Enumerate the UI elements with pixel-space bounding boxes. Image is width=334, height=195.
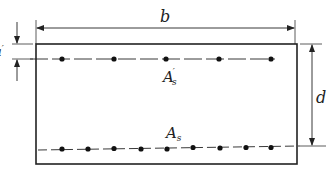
rebar-dot xyxy=(268,145,273,150)
section-diagram: b A′s As d a′ xyxy=(0,0,334,195)
rebar-dot xyxy=(138,146,143,151)
rebar-dot xyxy=(111,56,116,61)
rebar-dot xyxy=(85,146,90,151)
rebar-dot xyxy=(163,56,168,61)
cover-dimension: a′ xyxy=(0,22,33,81)
rebar-dot xyxy=(268,56,273,61)
rebar-dot xyxy=(59,146,64,151)
rebar-dot xyxy=(190,145,195,150)
concrete-section xyxy=(36,44,297,164)
width-dimension: b xyxy=(36,7,295,44)
width-label: b xyxy=(160,7,170,26)
rebar-dot xyxy=(216,56,221,61)
depth-dimension: d xyxy=(300,44,326,146)
tension-steel-label: As xyxy=(164,124,182,143)
compression-steel-label: A′s xyxy=(161,67,177,87)
tension-steel-row: As xyxy=(38,124,300,152)
compression-steel-row: A′s xyxy=(30,56,275,87)
rebar-dot xyxy=(59,56,64,61)
cover-label: a′ xyxy=(0,44,4,59)
depth-label: d xyxy=(316,88,326,107)
rebar-dot xyxy=(111,146,116,151)
rebar-dot xyxy=(164,146,169,151)
rebar-dot xyxy=(243,145,248,150)
rebar-dot xyxy=(217,145,222,150)
